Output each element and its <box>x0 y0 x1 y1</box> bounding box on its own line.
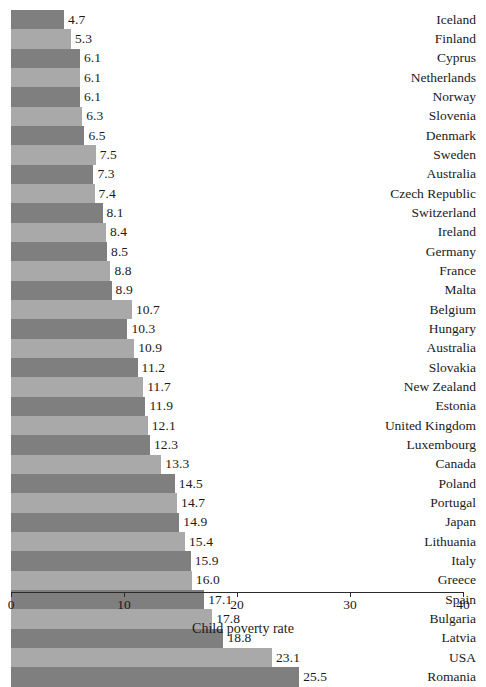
bar-value-label: 7.4 <box>99 187 116 201</box>
bar <box>11 416 148 435</box>
bar-row: 12.1United Kingdom <box>0 416 486 435</box>
bar-row: 14.9Japan <box>0 513 486 532</box>
bar-value-label: 8.9 <box>116 284 133 298</box>
x-axis: 010203040 Child poverty rate <box>0 592 486 649</box>
bar-value-label: 25.5 <box>303 670 327 684</box>
category-label: Portugal <box>430 496 476 510</box>
category-label: Slovakia <box>429 361 476 375</box>
bar <box>11 667 299 686</box>
bar-value-label: 13.3 <box>165 457 189 471</box>
x-axis-title: Child poverty rate <box>0 622 486 636</box>
bar <box>11 184 95 203</box>
category-label: Germany <box>426 245 476 259</box>
bar-row: 7.3Australia <box>0 165 486 184</box>
bar-value-label: 8.8 <box>114 264 131 278</box>
category-label: Denmark <box>426 129 476 143</box>
category-label: New Zealand <box>404 380 476 394</box>
bar-value-label: 14.9 <box>183 515 207 529</box>
bar-value-label: 6.1 <box>84 52 101 66</box>
category-label: Sweden <box>433 148 476 162</box>
bar-row: 8.1Switzerland <box>0 203 486 222</box>
bar-value-label: 15.9 <box>195 554 219 568</box>
x-axis-tick-label: 20 <box>230 598 244 612</box>
bar <box>11 203 103 222</box>
bar-row: 6.1Cyprus <box>0 49 486 68</box>
bar-value-label: 6.1 <box>84 71 101 85</box>
bar-row: 11.7New Zealand <box>0 377 486 396</box>
bar-value-label: 10.7 <box>136 303 160 317</box>
bar <box>11 532 185 551</box>
bar <box>11 493 177 512</box>
plot-area: 4.7Iceland5.3Finland6.1Cyprus6.1Netherla… <box>0 0 486 592</box>
category-label: Japan <box>445 515 476 529</box>
bar <box>11 29 71 48</box>
bar-value-label: 6.5 <box>88 129 105 143</box>
bar-row: 25.5Romania <box>0 667 486 686</box>
category-label: Slovenia <box>429 110 476 124</box>
bar-row: 11.9Estonia <box>0 397 486 416</box>
category-label: Czech Republic <box>390 187 476 201</box>
bar-value-label: 12.1 <box>152 419 176 433</box>
bar <box>11 435 150 454</box>
bar-row: 4.7Iceland <box>0 10 486 29</box>
bar <box>11 49 80 68</box>
category-label: Canada <box>436 457 476 471</box>
bar-row: 16.0Greece <box>0 571 486 590</box>
category-label: Italy <box>451 554 476 568</box>
bar-value-label: 11.7 <box>147 380 171 394</box>
bar <box>11 223 106 242</box>
category-label: Hungary <box>429 322 476 336</box>
bar <box>11 10 64 29</box>
bar <box>11 300 132 319</box>
bar <box>11 648 272 667</box>
category-label: USA <box>449 651 476 665</box>
bar <box>11 319 127 338</box>
bar-row: 8.8France <box>0 261 486 280</box>
bar-row: 8.9Malta <box>0 281 486 300</box>
bar <box>11 358 138 377</box>
bar <box>11 242 107 261</box>
x-axis-tick-label: 40 <box>456 598 470 612</box>
category-label: France <box>439 264 476 278</box>
bar-value-label: 7.5 <box>100 148 117 162</box>
bar-value-label: 11.9 <box>149 400 173 414</box>
bar-row: 13.3Canada <box>0 455 486 474</box>
category-label: Luxembourg <box>407 438 477 452</box>
category-label: Romania <box>427 670 476 684</box>
category-label: Poland <box>438 477 476 491</box>
x-axis-tick-label: 30 <box>343 598 357 612</box>
category-label: Finland <box>435 32 476 46</box>
bar <box>11 126 84 145</box>
bar-value-label: 4.7 <box>68 13 85 27</box>
bar-value-label: 10.9 <box>138 342 162 356</box>
category-label: Switzerland <box>412 206 476 220</box>
category-label: Netherlands <box>411 71 476 85</box>
bar <box>11 281 112 300</box>
category-label: Estonia <box>436 400 477 414</box>
bar <box>11 261 110 280</box>
bar <box>11 68 80 87</box>
category-label: Greece <box>438 573 476 587</box>
bar-row: 23.1USA <box>0 648 486 667</box>
bar-row: 15.9Italy <box>0 551 486 570</box>
category-label: Ireland <box>438 226 476 240</box>
bar-value-label: 7.3 <box>97 168 114 182</box>
x-axis-tick-label: 10 <box>117 598 131 612</box>
bar-value-label: 10.3 <box>131 322 155 336</box>
bar <box>11 397 145 416</box>
bar-row: 7.4Czech Republic <box>0 184 486 203</box>
bar <box>11 339 134 358</box>
category-label: Belgium <box>430 303 477 317</box>
bar-row: 11.2Slovakia <box>0 358 486 377</box>
bar-value-label: 16.0 <box>196 573 220 587</box>
bar <box>11 87 80 106</box>
bar-row: 15.4Lithuania <box>0 532 486 551</box>
x-axis-tick-label: 0 <box>8 598 15 612</box>
category-label: Iceland <box>436 13 476 27</box>
bar <box>11 165 93 184</box>
category-label: Cyprus <box>437 52 476 66</box>
bar-value-label: 15.4 <box>189 535 213 549</box>
category-label: Malta <box>445 284 477 298</box>
bar-value-label: 8.5 <box>111 245 128 259</box>
bar <box>11 455 161 474</box>
